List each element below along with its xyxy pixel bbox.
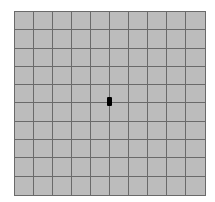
grid-cell[interactable] bbox=[53, 103, 72, 121]
grid-cell[interactable] bbox=[53, 140, 72, 158]
grid-cell[interactable] bbox=[186, 140, 205, 158]
grid-cell[interactable] bbox=[72, 140, 91, 158]
grid-cell[interactable] bbox=[110, 177, 129, 195]
grid-cell[interactable] bbox=[72, 122, 91, 140]
grid-cell[interactable] bbox=[186, 122, 205, 140]
grid-cell[interactable] bbox=[91, 140, 110, 158]
grid-cell[interactable] bbox=[91, 67, 110, 85]
grid-cell[interactable] bbox=[91, 30, 110, 48]
grid-cell[interactable] bbox=[110, 30, 129, 48]
grid-cell[interactable] bbox=[110, 49, 129, 67]
grid-cell[interactable] bbox=[34, 12, 53, 30]
grid-cell[interactable] bbox=[148, 12, 167, 30]
grid-cell[interactable] bbox=[53, 30, 72, 48]
grid-cell[interactable] bbox=[53, 177, 72, 195]
grid-cell[interactable] bbox=[167, 103, 186, 121]
grid-cell[interactable] bbox=[167, 12, 186, 30]
grid-cell[interactable] bbox=[129, 85, 148, 103]
grid-cell[interactable] bbox=[15, 30, 34, 48]
grid-cell[interactable] bbox=[53, 158, 72, 176]
grid-cell[interactable] bbox=[129, 177, 148, 195]
grid-cell[interactable] bbox=[15, 103, 34, 121]
grid-cell[interactable] bbox=[34, 49, 53, 67]
grid-cell[interactable] bbox=[72, 12, 91, 30]
grid-cell[interactable] bbox=[110, 158, 129, 176]
grid-cell[interactable] bbox=[186, 49, 205, 67]
grid-cell[interactable] bbox=[34, 103, 53, 121]
grid-cell[interactable] bbox=[91, 122, 110, 140]
grid-cell[interactable] bbox=[15, 140, 34, 158]
grid-cell[interactable] bbox=[34, 30, 53, 48]
grid-cell[interactable] bbox=[34, 85, 53, 103]
grid-cell[interactable] bbox=[186, 12, 205, 30]
grid-cell[interactable] bbox=[110, 140, 129, 158]
grid-cell[interactable] bbox=[15, 85, 34, 103]
grid-cell[interactable] bbox=[53, 122, 72, 140]
grid-cell[interactable] bbox=[110, 12, 129, 30]
grid-cell[interactable] bbox=[167, 122, 186, 140]
grid-cell[interactable] bbox=[53, 85, 72, 103]
grid-cell[interactable] bbox=[148, 103, 167, 121]
grid-cell[interactable] bbox=[34, 177, 53, 195]
grid-cell[interactable] bbox=[72, 158, 91, 176]
grid-cell[interactable] bbox=[53, 67, 72, 85]
grid-cell[interactable] bbox=[148, 122, 167, 140]
grid-cell[interactable] bbox=[186, 177, 205, 195]
grid-cell[interactable] bbox=[72, 85, 91, 103]
grid-cell[interactable] bbox=[53, 12, 72, 30]
grid-cell[interactable] bbox=[15, 67, 34, 85]
grid-cell[interactable] bbox=[15, 12, 34, 30]
grid-cell[interactable] bbox=[129, 122, 148, 140]
grid-cell[interactable] bbox=[72, 67, 91, 85]
grid-cell[interactable] bbox=[148, 30, 167, 48]
grid-cell[interactable] bbox=[148, 85, 167, 103]
grid-cell[interactable] bbox=[91, 12, 110, 30]
grid-cell[interactable] bbox=[148, 177, 167, 195]
grid-cell[interactable] bbox=[72, 30, 91, 48]
grid-cell[interactable] bbox=[167, 140, 186, 158]
grid-cell[interactable] bbox=[186, 67, 205, 85]
grid-cell[interactable] bbox=[129, 140, 148, 158]
grid-cell[interactable] bbox=[72, 49, 91, 67]
grid-cell[interactable] bbox=[167, 30, 186, 48]
grid-cell[interactable] bbox=[129, 49, 148, 67]
grid-cell[interactable] bbox=[110, 103, 129, 121]
grid-cell[interactable] bbox=[129, 12, 148, 30]
grid-cell[interactable] bbox=[148, 67, 167, 85]
grid-cell[interactable] bbox=[15, 177, 34, 195]
grid-cell[interactable] bbox=[34, 140, 53, 158]
grid-cell[interactable] bbox=[91, 177, 110, 195]
grid-cell[interactable] bbox=[129, 158, 148, 176]
grid-cell[interactable] bbox=[110, 85, 129, 103]
grid-cell[interactable] bbox=[15, 122, 34, 140]
grid-cell[interactable] bbox=[34, 122, 53, 140]
grid-cell[interactable] bbox=[148, 158, 167, 176]
grid-cell[interactable] bbox=[110, 122, 129, 140]
grid-cell[interactable] bbox=[129, 30, 148, 48]
grid-cell[interactable] bbox=[186, 30, 205, 48]
grid-cell[interactable] bbox=[129, 103, 148, 121]
grid-cell[interactable] bbox=[186, 103, 205, 121]
grid-cell[interactable] bbox=[15, 158, 34, 176]
grid-cell[interactable] bbox=[91, 103, 110, 121]
grid-cell[interactable] bbox=[186, 85, 205, 103]
grid-cell[interactable] bbox=[34, 67, 53, 85]
grid-cell[interactable] bbox=[167, 49, 186, 67]
grid-cell[interactable] bbox=[167, 67, 186, 85]
grid-cell[interactable] bbox=[15, 49, 34, 67]
grid-cell[interactable] bbox=[167, 158, 186, 176]
grid-cell[interactable] bbox=[53, 49, 72, 67]
grid-cell[interactable] bbox=[148, 49, 167, 67]
grid-cell[interactable] bbox=[148, 140, 167, 158]
grid-cell[interactable] bbox=[167, 85, 186, 103]
grid-cell[interactable] bbox=[167, 177, 186, 195]
grid-cell[interactable] bbox=[91, 49, 110, 67]
grid-cell[interactable] bbox=[34, 158, 53, 176]
grid-cell[interactable] bbox=[129, 67, 148, 85]
grid-cell[interactable] bbox=[110, 67, 129, 85]
grid-cell[interactable] bbox=[91, 158, 110, 176]
grid-cell[interactable] bbox=[186, 158, 205, 176]
game-canvas[interactable] bbox=[0, 0, 215, 202]
grid-cell[interactable] bbox=[72, 103, 91, 121]
cursor-marker[interactable] bbox=[107, 97, 112, 106]
